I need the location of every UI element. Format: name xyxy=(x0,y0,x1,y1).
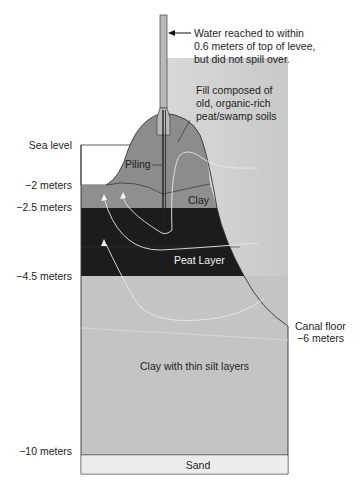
fill-note: Fill composed of old, organic-rich peat/… xyxy=(196,84,277,122)
water-note: Water reached to within 0.6 meters of to… xyxy=(194,27,318,65)
piling-upper xyxy=(160,15,167,108)
piling-label: Piling xyxy=(125,158,151,170)
depth-minus-2-5-label: −2.5 meters xyxy=(16,201,72,213)
sand-layer-label: Sand xyxy=(186,459,211,471)
sea-level-label: Sea level xyxy=(29,139,72,151)
clay-layer-label: Clay xyxy=(188,194,210,206)
canal-floor-label: Canal floor −6 meters xyxy=(295,320,349,344)
water-pointer-arrowhead xyxy=(168,30,175,36)
peat-layer-label: Peat Layer xyxy=(174,254,225,266)
depth-minus-4-5-label: −4.5 meters xyxy=(16,270,72,282)
clay-silt-layer-label: Clay with thin silt layers xyxy=(140,360,249,372)
sand-layer xyxy=(82,456,288,474)
depth-minus-10-label: −10 meters xyxy=(19,445,72,457)
depth-minus-2-label: −2 meters xyxy=(25,179,72,191)
levee-diagram: Water reached to within 0.6 meters of to… xyxy=(0,0,360,490)
